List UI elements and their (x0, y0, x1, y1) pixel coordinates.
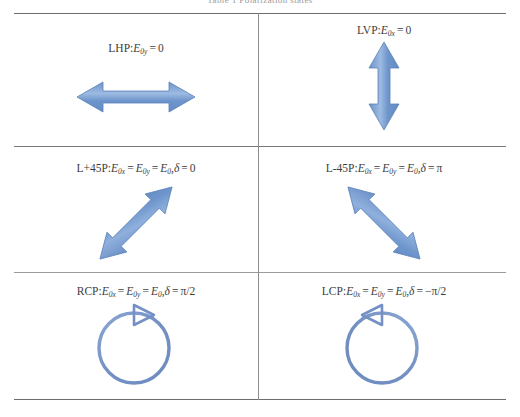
subscript-0y: 0y (133, 290, 140, 299)
counterclockwise-circle-arrow-icon (338, 304, 430, 388)
cell-lm45p-delta: δ (421, 162, 426, 174)
horizontal-double-arrow-icon (77, 80, 195, 114)
equals-1: = (362, 285, 369, 297)
cell-lvp-label: LVP:E0x=0 (262, 14, 506, 38)
cell-lcp: LCP:E0x=E0y=E0,δ=−π/2 (262, 273, 506, 399)
equals-3: = (416, 285, 423, 297)
symbol-E-x: E (102, 285, 109, 297)
cell-lm45p-delta-value: π (436, 162, 442, 174)
diagonal-double-arrow-plus45-icon (85, 183, 187, 263)
cell-lhp-subscript: 0y (140, 47, 147, 56)
cell-l45p-glyph (14, 180, 258, 266)
equals-1: = (374, 162, 381, 174)
cell-lvp-symbol-E: E (381, 24, 388, 36)
symbol-E-0: E (407, 162, 414, 174)
cell-lcp-label: LCP:E0x=E0y=E0,δ=−π/2 (262, 273, 506, 299)
figure-caption: Table 1 Polarization states (0, 0, 520, 6)
table-bottom-rule (14, 399, 506, 400)
clockwise-circle-arrow-icon (90, 304, 182, 388)
cell-lvp-equals: = (397, 24, 404, 36)
cell-lcp-delta-value: −π/2 (425, 285, 446, 297)
equals-3: = (428, 162, 435, 174)
cell-lhp-equals: = (149, 42, 156, 54)
cell-l45p-label: L+45P:E0x=E0y=E0,δ=0 (14, 147, 258, 176)
polarization-states-table-figure: Table 1 Polarization states LHP:E0y=0 (0, 0, 520, 417)
cell-l45p-delta: δ (174, 162, 179, 174)
equals-2: = (142, 285, 149, 297)
equals-1: = (118, 285, 125, 297)
symbol-E-y: E (371, 285, 378, 297)
cell-l45p: L+45P:E0x=E0y=E0,δ=0 (14, 147, 258, 272)
symbol-E-0: E (151, 285, 158, 297)
cell-lhp-label: LHP:E0y=0 (14, 14, 258, 56)
cell-lvp-value: 0 (405, 24, 411, 36)
cell-l45p-prefix: L+45P (76, 162, 107, 174)
equals-3: = (181, 162, 188, 174)
subscript-0x: 0x (353, 290, 360, 299)
cell-lvp-subscript: 0x (388, 29, 395, 38)
equals-2: = (387, 285, 394, 297)
symbol-E-y: E (136, 162, 143, 174)
cell-lm45p-prefix: L-45P (326, 162, 355, 174)
cell-rcp-glyph (14, 303, 258, 389)
subscript-0x: 0x (118, 167, 125, 176)
cell-lcp-delta: δ (409, 285, 414, 297)
cell-lvp-prefix: LVP (357, 24, 378, 36)
cell-rcp-label: RCP:E0x=E0y=E0,δ=π/2 (14, 273, 258, 299)
cell-lm45p-label: L-45P:E0x=E0y=E0,δ=π (262, 147, 506, 176)
subscript-0y: 0y (143, 167, 150, 176)
cell-lhp: LHP:E0y=0 (14, 14, 258, 146)
cell-rcp: RCP:E0x=E0y=E0,δ=π/2 (14, 273, 258, 399)
cell-rcp-delta-value: π/2 (180, 285, 195, 297)
cell-lcp-prefix: LCP (322, 285, 343, 297)
equals-2: = (398, 162, 405, 174)
cell-lm45p: L-45P:E0x=E0y=E0,δ=π (262, 147, 506, 272)
cell-lvp-glyph (262, 40, 506, 132)
symbol-E-x: E (358, 162, 365, 174)
cell-lcp-glyph (262, 303, 506, 389)
cell-l45p-delta-value: 0 (190, 162, 196, 174)
subscript-0x: 0x (109, 290, 116, 299)
cell-lvp: LVP:E0x=0 (262, 14, 506, 146)
cell-rcp-prefix: RCP (77, 285, 99, 297)
subscript-0y: 0y (378, 290, 385, 299)
vertical-double-arrow-icon (367, 42, 401, 130)
equals-3: = (172, 285, 179, 297)
cell-lhp-prefix: LHP (108, 42, 130, 54)
cell-lhp-value: 0 (158, 42, 164, 54)
table-column-divider (258, 13, 259, 400)
subscript-0y: 0y (389, 167, 396, 176)
cell-lhp-glyph (14, 62, 258, 132)
diagonal-double-arrow-minus45-icon (333, 183, 435, 263)
cell-rcp-delta: δ (165, 285, 170, 297)
subscript-0x: 0x (365, 167, 372, 176)
equals-2: = (152, 162, 159, 174)
cell-lm45p-glyph (262, 180, 506, 266)
equals-1: = (127, 162, 134, 174)
